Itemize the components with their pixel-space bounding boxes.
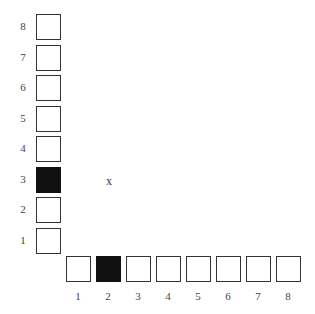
row-label-6: 6 bbox=[16, 81, 30, 93]
col-box-6 bbox=[216, 256, 241, 282]
intersection-marker: x bbox=[106, 174, 112, 189]
col-box-5 bbox=[186, 256, 211, 282]
col-label-5: 5 bbox=[191, 290, 205, 302]
row-box-5 bbox=[36, 106, 61, 132]
row-label-2: 2 bbox=[16, 203, 30, 215]
row-box-8 bbox=[36, 14, 61, 40]
row-label-5: 5 bbox=[16, 112, 30, 124]
col-label-2: 2 bbox=[101, 290, 115, 302]
row-label-4: 4 bbox=[16, 142, 30, 154]
col-label-7: 7 bbox=[251, 290, 265, 302]
col-label-3: 3 bbox=[131, 290, 145, 302]
col-box-8 bbox=[276, 256, 301, 282]
col-box-2 bbox=[96, 256, 121, 282]
col-box-3 bbox=[126, 256, 151, 282]
row-box-3 bbox=[36, 167, 61, 193]
col-box-1 bbox=[66, 256, 91, 282]
col-box-7 bbox=[246, 256, 271, 282]
col-label-4: 4 bbox=[161, 290, 175, 302]
col-box-4 bbox=[156, 256, 181, 282]
row-box-4 bbox=[36, 136, 61, 162]
col-label-1: 1 bbox=[71, 290, 85, 302]
row-label-3: 3 bbox=[16, 173, 30, 185]
col-label-6: 6 bbox=[221, 290, 235, 302]
row-label-1: 1 bbox=[16, 234, 30, 246]
row-label-8: 8 bbox=[16, 20, 30, 32]
row-box-2 bbox=[36, 197, 61, 223]
row-box-7 bbox=[36, 45, 61, 71]
row-label-7: 7 bbox=[16, 51, 30, 63]
row-box-1 bbox=[36, 228, 61, 254]
row-box-6 bbox=[36, 75, 61, 101]
col-label-8: 8 bbox=[281, 290, 295, 302]
